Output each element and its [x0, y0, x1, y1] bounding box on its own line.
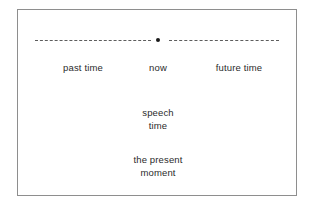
label-past-time: past time	[63, 62, 103, 74]
timeline-figure: past time now future time speech time th…	[0, 0, 316, 211]
present-moment-line-2: moment	[133, 166, 182, 179]
now-point-marker	[156, 38, 160, 42]
label-now: now	[149, 62, 167, 74]
timeline: past time now future time speech time th…	[18, 10, 298, 197]
speech-time-line-1: speech	[142, 106, 174, 119]
future-axis-segment	[169, 40, 279, 41]
label-future-time: future time	[216, 62, 263, 74]
present-moment-line-1: the present	[133, 153, 182, 166]
past-axis-segment	[35, 40, 151, 41]
speech-time-line-2: time	[142, 119, 174, 132]
speech-time-annotation: speech time	[142, 106, 174, 132]
figure-frame: past time now future time speech time th…	[17, 9, 297, 196]
present-moment-annotation: the present moment	[133, 153, 182, 179]
